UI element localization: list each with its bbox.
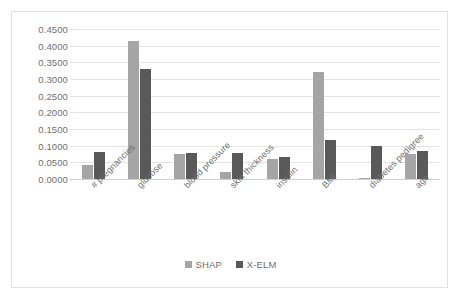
legend-label: SHAP <box>196 259 222 270</box>
legend-label: X-ELM <box>247 259 277 270</box>
y-axis-tick-label: 0.4000 <box>38 40 68 51</box>
bar-shap[interactable] <box>220 172 231 179</box>
bar-shap[interactable] <box>267 159 278 179</box>
y-axis-tick-label: 0.2500 <box>38 90 68 101</box>
bar-shap[interactable] <box>313 72 324 179</box>
bar-group <box>70 29 116 179</box>
bar-shap[interactable] <box>174 154 185 179</box>
bar-shap[interactable] <box>82 165 93 179</box>
bar-group <box>301 29 347 179</box>
legend-item-x-elm[interactable]: X-ELM <box>236 259 277 270</box>
legend-swatch-icon <box>185 261 192 268</box>
bar-x-elm[interactable] <box>140 69 151 179</box>
bar-group <box>163 29 209 179</box>
y-axis-tick-label: 0.1000 <box>38 140 68 151</box>
y-axis-tick-label: 0.3000 <box>38 74 68 85</box>
y-axis-tick-label: 0.1500 <box>38 124 68 135</box>
y-axis-tick-label: 0.0500 <box>38 157 68 168</box>
y-axis-tick-label: 0.4500 <box>38 24 68 35</box>
bar-shap[interactable] <box>405 154 416 179</box>
y-axis: 0.00000.05000.10000.15000.20000.25000.30… <box>23 29 68 179</box>
bar-group <box>348 29 394 179</box>
x-axis: # pregnanciesglucoseblood pressureskin t… <box>70 179 440 249</box>
chart-frame: 0.00000.05000.10000.15000.20000.25000.30… <box>11 11 448 288</box>
chart-legend: SHAPX-ELM <box>12 259 449 270</box>
legend-swatch-icon <box>236 261 243 268</box>
y-axis-tick-label: 0.2000 <box>38 107 68 118</box>
bar-shap[interactable] <box>128 41 139 179</box>
y-axis-tick-label: 0.0000 <box>38 174 68 185</box>
legend-item-shap[interactable]: SHAP <box>185 259 222 270</box>
y-axis-tick-label: 0.3500 <box>38 57 68 68</box>
